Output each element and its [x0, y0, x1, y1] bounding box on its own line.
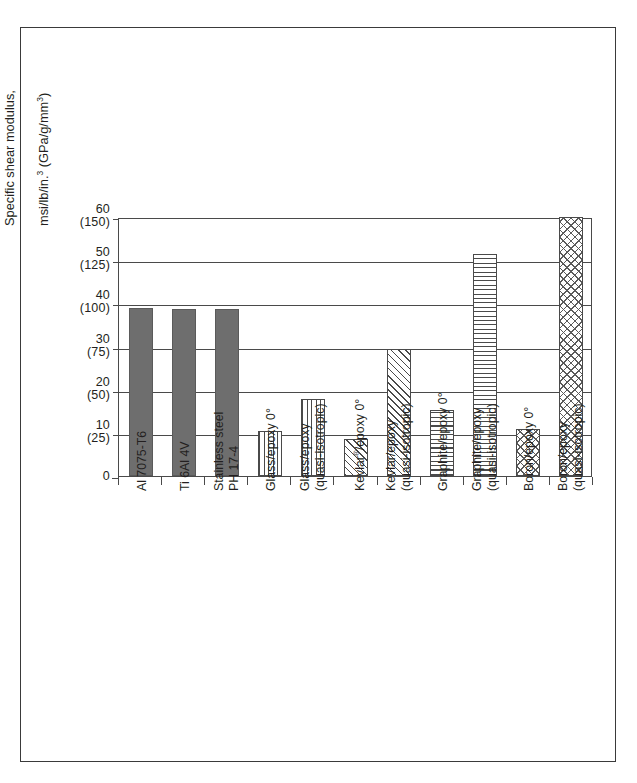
- y-tick-label-primary: 10: [56, 419, 110, 432]
- y-tick-label-secondary: (25): [56, 432, 110, 445]
- bar-chart: Specific shear modulus, msi/lb/in.3 (GPa…: [0, 0, 637, 783]
- x-tick-mark: [463, 477, 464, 485]
- y-tick-label-secondary: (100): [56, 302, 110, 315]
- y-tick-label: 40(100): [56, 289, 110, 315]
- x-tick-mark: [247, 477, 248, 485]
- y-tick-mark: [113, 305, 119, 306]
- y-axis-title-line2: msi/lb/in.3 (GPa/g/mm3): [36, 93, 51, 226]
- x-tick-label: Kevlar/epoxy(quasi-isotropic): [384, 361, 413, 491]
- x-tick-label-line1: Stainless steel: [212, 412, 226, 491]
- x-tick-label: Boron/epoxy(quasi-isotropic): [556, 361, 585, 491]
- y-axis-title-line1: Specific shear modulus,: [2, 90, 17, 226]
- gridline: [119, 305, 591, 306]
- gridline: [119, 262, 591, 263]
- y-tick-label: 20(50): [56, 376, 110, 402]
- x-tick-label: Graphite/epoxy 0°: [436, 361, 451, 491]
- x-tick-mark: [204, 477, 205, 485]
- x-tick-mark: [377, 477, 378, 485]
- x-tick-mark: [161, 477, 162, 485]
- x-tick-label-line2: (quasi-isotropic): [571, 404, 585, 491]
- x-tick-label-line2: (quasi-isotropic): [313, 404, 327, 491]
- y-tick-label-secondary: (50): [56, 389, 110, 402]
- x-tick-label-line1: Graphite/epoxy 0°: [436, 392, 450, 491]
- x-tick-mark: [549, 477, 550, 485]
- x-tick-label: Glass/epoxy(quasi-isotropic): [298, 361, 327, 491]
- y-tick-label: 30(75): [56, 333, 110, 359]
- x-tick-mark: [333, 477, 334, 485]
- x-tick-label-line2: PH 17-4: [226, 446, 240, 491]
- y-tick-mark: [113, 435, 119, 436]
- x-tick-mark: [506, 477, 507, 485]
- x-tick-label: Glass/epoxy 0°: [264, 361, 279, 491]
- x-tick-label: Stainless steelPH 17-4: [212, 361, 241, 491]
- x-tick-label: Ti 6Al 4V: [178, 361, 193, 491]
- x-tick-label-line1: Boron/epoxy 0°: [522, 407, 536, 491]
- y-tick-mark: [113, 392, 119, 393]
- x-tick-mark: [118, 477, 119, 485]
- x-tick-label-line2: (quasi-isotropic): [485, 404, 499, 491]
- y-tick-label-primary: 20: [56, 376, 110, 389]
- y-axis-title: Specific shear modulus, msi/lb/in.3 (GPa…: [0, 0, 51, 226]
- y-tick-label-primary: 0: [56, 470, 110, 483]
- x-tick-label-line1: Glass/epoxy: [298, 423, 312, 491]
- x-tick-label: Kevlar®/epoxy 0°: [350, 361, 368, 491]
- y-tick-label-secondary: (125): [56, 259, 110, 272]
- x-tick-label: Al 7075-T6: [135, 361, 150, 491]
- y-tick-label-secondary: (75): [56, 346, 110, 359]
- x-tick-label-line1: Graphite/epoxy: [470, 408, 484, 491]
- y-tick-mark: [113, 262, 119, 263]
- y-tick-label: 10(25): [56, 419, 110, 445]
- y-tick-label: 60(150): [56, 203, 110, 229]
- x-tick-mark: [290, 477, 291, 485]
- x-tick-label-line2: (quasi-isotropic): [399, 404, 413, 491]
- x-tick-label-line1: Kevlar/epoxy: [384, 420, 398, 491]
- x-tick-label: Boron/epoxy 0°: [522, 361, 537, 491]
- y-tick-label-primary: 30: [56, 333, 110, 346]
- y-tick-label-secondary: (150): [56, 216, 110, 229]
- x-tick-label-line1: Ti 6Al 4V: [178, 442, 192, 491]
- x-tick-mark: [420, 477, 421, 485]
- x-tick-label-line1: Glass/epoxy 0°: [264, 408, 278, 491]
- x-tick-mark: [592, 477, 593, 485]
- y-tick-mark: [113, 219, 119, 220]
- y-tick-mark: [113, 349, 119, 350]
- x-tick-label-line1: Kevlar®/epoxy 0°: [353, 399, 367, 491]
- x-tick-label: Graphite/epoxy(quasi-isotropic): [470, 361, 499, 491]
- y-tick-label: 0: [56, 470, 110, 483]
- x-tick-label-line1: Boron/epoxy: [556, 422, 570, 491]
- y-tick-label: 50(125): [56, 246, 110, 272]
- x-tick-label-line1: Al 7075-T6: [135, 431, 149, 491]
